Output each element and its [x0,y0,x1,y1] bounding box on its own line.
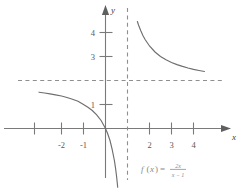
function-numerator: 2x [175,163,181,169]
graph-figure: y x -2 -1 2 3 4 4 3 1 [0,0,246,189]
function-graph-svg: y x -2 -1 2 3 4 4 3 1 [0,0,246,189]
x-tick-label-neg2: -2 [58,140,65,150]
y-tick-label-1: 1 [91,100,95,110]
x-tick-label-3: 3 [169,140,173,150]
function-equals-sign: = [160,164,165,174]
function-denominator: x − 1 [171,172,185,178]
x-tick-label-2: 2 [147,140,151,150]
x-tick-label-neg1: -1 [80,140,87,150]
y-tick-label-3: 3 [91,52,95,62]
chart-background [0,0,246,189]
function-variable: x [149,164,154,174]
x-axis-label: x [231,132,236,142]
y-axis-label: y [110,5,115,15]
function-close-paren: ) [155,164,158,174]
